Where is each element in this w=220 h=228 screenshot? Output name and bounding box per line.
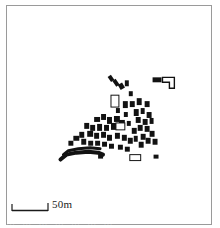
filled-structure xyxy=(141,108,145,114)
filled-structure xyxy=(68,141,73,146)
filled-structure xyxy=(90,125,95,131)
filled-structure xyxy=(97,124,102,131)
scale-bar: 50m xyxy=(10,198,100,216)
outlined-rect-lower xyxy=(130,155,141,161)
l-shaped-building-outline xyxy=(162,77,174,88)
filled-structure xyxy=(101,114,106,120)
filled-structure xyxy=(137,98,142,105)
filled-structure xyxy=(147,112,152,118)
filled-structure xyxy=(138,125,143,131)
filled-structure xyxy=(87,131,93,137)
filled-structure xyxy=(129,91,133,96)
filled-structure xyxy=(88,141,93,146)
filled-structure xyxy=(116,108,120,113)
filled-structure xyxy=(146,138,151,144)
scale-bar-label: 50m xyxy=(52,198,72,210)
filled-structure xyxy=(115,133,120,139)
filled-structure xyxy=(94,117,100,122)
filled-structure xyxy=(102,142,107,147)
filled-structure xyxy=(143,119,148,125)
caption-text: … … … … … … … xyxy=(6,221,115,227)
site-plan-figure: 50m … … … … … … … xyxy=(0,0,220,228)
filled-structure xyxy=(84,123,89,129)
filled-structure xyxy=(101,132,106,138)
filled-structure xyxy=(139,142,144,148)
map-frame xyxy=(6,5,212,225)
filled-structure xyxy=(123,101,128,108)
filled-structure xyxy=(79,132,84,138)
filled-structure xyxy=(132,128,137,134)
filled-structure xyxy=(134,136,138,142)
l-shaped-building-annex xyxy=(153,77,162,82)
caption-strip: … … … … … … … xyxy=(0,221,220,228)
filled-structure xyxy=(153,139,158,145)
filled-structure xyxy=(125,147,130,152)
filled-structure xyxy=(134,109,139,116)
filled-structure xyxy=(145,101,150,107)
map-canvas xyxy=(7,6,211,224)
filled-structure xyxy=(154,155,159,159)
filled-structure xyxy=(124,112,128,117)
filled-structure xyxy=(107,135,112,141)
filled-structure-group xyxy=(68,75,158,159)
filled-structure xyxy=(150,131,155,137)
filled-structure xyxy=(109,144,114,149)
filled-structure xyxy=(98,155,103,159)
wall-line-group xyxy=(60,148,103,160)
filled-structure xyxy=(136,117,141,123)
filled-structure xyxy=(73,136,79,141)
filled-structure xyxy=(122,135,127,141)
filled-structure xyxy=(118,145,123,150)
filled-structure xyxy=(94,133,99,139)
outlined-rect-center xyxy=(116,123,125,130)
filled-structure xyxy=(150,118,154,124)
filled-structure xyxy=(95,141,100,146)
filled-structure xyxy=(130,101,135,107)
filled-structure xyxy=(107,117,112,124)
filled-structure xyxy=(125,80,129,86)
filled-structure xyxy=(127,121,131,126)
filled-structure xyxy=(104,125,109,131)
filled-structure xyxy=(145,126,150,132)
filled-structure xyxy=(128,138,133,144)
filled-structure xyxy=(141,134,146,140)
l-shaped-compound xyxy=(153,77,175,88)
filled-structure xyxy=(81,139,86,145)
outlined-rect-upper xyxy=(111,95,119,107)
